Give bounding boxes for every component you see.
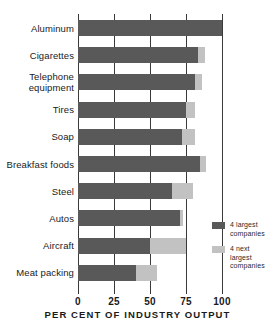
category-label: Soap xyxy=(51,131,74,142)
tick-label-25: 25 xyxy=(108,296,120,307)
tick-mark-0 xyxy=(78,288,79,294)
bar-row xyxy=(78,47,222,63)
legend-swatch-dark-icon xyxy=(212,222,225,229)
category-label: Steel xyxy=(52,186,74,197)
bar-segment xyxy=(78,102,186,118)
tick-mark-75 xyxy=(186,288,187,294)
bar-segment xyxy=(78,74,195,90)
bar-row xyxy=(78,74,222,90)
tick-mark-100 xyxy=(222,288,223,294)
category-label: Autos xyxy=(49,213,74,224)
tick-mark-50 xyxy=(150,288,151,294)
bar-segment xyxy=(78,156,200,172)
bar-row xyxy=(78,156,222,172)
bar-segment xyxy=(182,129,195,145)
bar-segment xyxy=(78,210,180,226)
bar-segment xyxy=(78,47,198,63)
category-label: Tires xyxy=(53,104,74,115)
bar-segment xyxy=(186,102,195,118)
concentration-bar-chart: AluminumCigarettesTelephone equipmentTir… xyxy=(0,0,275,323)
bar-row xyxy=(78,102,222,118)
bar-row xyxy=(78,210,222,226)
bar-segment xyxy=(198,47,205,63)
tick-label-75: 75 xyxy=(180,296,192,307)
bar-segment xyxy=(78,183,172,199)
legend-swatch-light-icon xyxy=(212,246,225,253)
bar-segment xyxy=(172,183,194,199)
bar-row xyxy=(78,129,222,145)
category-label: Meat packing xyxy=(16,267,74,278)
chart-legend: 4 largest companies 4 next largest compa… xyxy=(212,221,274,278)
bar-segment xyxy=(78,265,136,281)
bar-row xyxy=(78,265,222,281)
bar-segment xyxy=(78,238,150,254)
category-label: Aluminum xyxy=(31,23,74,34)
tick-label-100: 100 xyxy=(213,296,231,307)
legend-label-4-largest: 4 largest companies xyxy=(230,221,274,238)
x-axis-title: PER CENT OF INDUSTRY OUTPUT xyxy=(0,309,275,320)
tick-mark-25 xyxy=(114,288,115,294)
bar-row xyxy=(78,238,222,254)
category-label: Cigarettes xyxy=(30,50,74,61)
category-label: Telephone equipment xyxy=(29,71,74,93)
bar-row xyxy=(78,183,222,199)
category-label: Breakfast foods xyxy=(6,159,74,170)
category-label: Aircraft xyxy=(43,240,74,251)
bar-segment xyxy=(180,210,183,226)
tick-label-50: 50 xyxy=(144,296,156,307)
legend-label-4-next-largest: 4 next largest companies xyxy=(230,245,274,271)
bar-segment xyxy=(78,129,182,145)
bar-segment xyxy=(78,20,222,36)
bar-row xyxy=(78,20,222,36)
bar-segment xyxy=(195,74,202,90)
bar-segment xyxy=(136,265,158,281)
bar-segment xyxy=(200,156,206,172)
bar-segment xyxy=(150,238,186,254)
legend-item-4-largest: 4 largest companies xyxy=(212,221,274,238)
plot-area xyxy=(78,14,222,288)
legend-item-4-next-largest: 4 next largest companies xyxy=(212,245,274,271)
tick-label-0: 0 xyxy=(75,296,81,307)
